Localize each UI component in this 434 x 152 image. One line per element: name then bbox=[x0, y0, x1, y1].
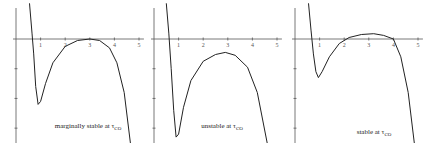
chart-figure: 12345marginally stable at τCO12345unstab… bbox=[0, 0, 434, 152]
panel-caption: unstable at τCO bbox=[201, 122, 243, 131]
x-tick-label: 3 bbox=[367, 42, 370, 48]
x-tick-label: 2 bbox=[202, 42, 205, 48]
caption-subscript: CO bbox=[236, 126, 243, 131]
x-tick-label: 1 bbox=[318, 42, 321, 48]
x-tick-label: 1 bbox=[39, 42, 42, 48]
x-tick-label: 4 bbox=[251, 42, 254, 48]
x-tick-label: 3 bbox=[226, 42, 229, 48]
x-tick-label: 2 bbox=[343, 42, 346, 48]
x-tick-label: 5 bbox=[138, 42, 141, 48]
x-tick-label: 1 bbox=[177, 42, 180, 48]
x-tick-label: 5 bbox=[276, 42, 279, 48]
series-line bbox=[309, 3, 415, 143]
caption-subscript: CO bbox=[384, 132, 391, 137]
panel-caption: marginally stable at τCO bbox=[55, 122, 122, 131]
x-tick-label: 3 bbox=[88, 42, 91, 48]
caption-subscript: CO bbox=[114, 126, 121, 131]
x-tick-label: 4 bbox=[113, 42, 116, 48]
panel-caption: stable at τCO bbox=[357, 128, 392, 137]
x-tick-label: 5 bbox=[417, 42, 420, 48]
x-tick-label: 4 bbox=[392, 42, 395, 48]
